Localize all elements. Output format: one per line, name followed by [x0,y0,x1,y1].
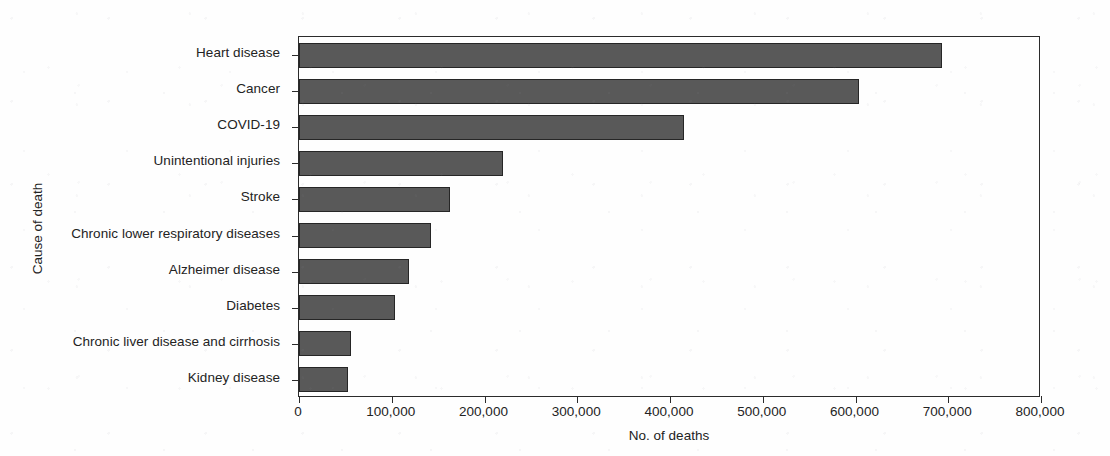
bar-fill [299,115,684,140]
y-tick-mark [292,163,299,164]
y-tick-mark [292,380,299,381]
x-tick-mark [577,396,578,403]
bar-fill [299,223,431,248]
bar-chronic-lower-respiratory-diseases [299,223,431,248]
bar-fill [299,187,450,212]
y-tick-label: Alzheimer disease [169,262,280,277]
y-tick-mark [292,308,299,309]
bar-heart-disease [299,43,942,68]
x-tick-label: 800,000 [1016,404,1065,419]
bar-fill [299,151,503,176]
bar-unintentional-injuries [299,151,503,176]
y-tick-mark [292,91,299,92]
plot-area [298,36,1040,397]
x-tick-label: 400,000 [645,404,694,419]
x-tick-mark [392,396,393,403]
x-tick-label: 700,000 [923,404,972,419]
y-tick-mark [292,55,299,56]
bar-kidney-disease [299,367,348,392]
bar-cancer [299,79,859,104]
x-tick-label: 500,000 [737,404,786,419]
x-tick-mark [856,396,857,403]
y-tick-label: Diabetes [226,298,280,313]
bar-fill [299,367,348,392]
bar-alzheimer-disease [299,259,409,284]
bar-covid-19 [299,115,684,140]
y-tick-mark [292,272,299,273]
x-axis-title: No. of deaths [298,428,1040,443]
x-axis-title-text: No. of deaths [629,428,709,443]
x-tick-mark [670,396,671,403]
bar-fill [299,43,942,68]
bar-fill [299,79,859,104]
y-tick-mark [292,236,299,237]
bar-fill [299,331,351,356]
y-tick-label: Kidney disease [188,370,280,385]
y-tick-label: COVID-19 [217,117,280,132]
x-tick-mark [763,396,764,403]
y-tick-label: Unintentional injuries [154,153,280,168]
x-tick-label: 300,000 [552,404,601,419]
y-tick-label: Stroke [241,189,280,204]
x-tick-label: 100,000 [366,404,415,419]
y-tick-label: Chronic lower respiratory diseases [71,226,280,241]
bar-fill [299,295,395,320]
bar-diabetes [299,295,395,320]
y-tick-label: Heart disease [196,45,280,60]
x-tick-mark [485,396,486,403]
bar-stroke [299,187,450,212]
x-tick-mark [299,396,300,403]
y-tick-mark [292,344,299,345]
x-tick-label: 200,000 [459,404,508,419]
x-tick-label: 0 [294,404,302,419]
y-tick-mark [292,127,299,128]
bar-chronic-liver-disease-and-cirrhosis [299,331,351,356]
x-axis-tick-labels: 0100,000200,000300,000400,000500,000600,… [298,404,1040,426]
x-tick-mark [1041,396,1042,403]
y-tick-label: Chronic liver disease and cirrhosis [73,334,280,349]
y-tick-mark [292,199,299,200]
chart-figure: Cause of death Heart diseaseCancerCOVID-… [0,0,1110,456]
x-tick-label: 600,000 [830,404,879,419]
y-tick-label: Cancer [236,81,280,96]
x-tick-mark [948,396,949,403]
y-axis-tick-labels: Heart diseaseCancerCOVID-19Unintentional… [0,36,290,397]
bar-fill [299,259,409,284]
